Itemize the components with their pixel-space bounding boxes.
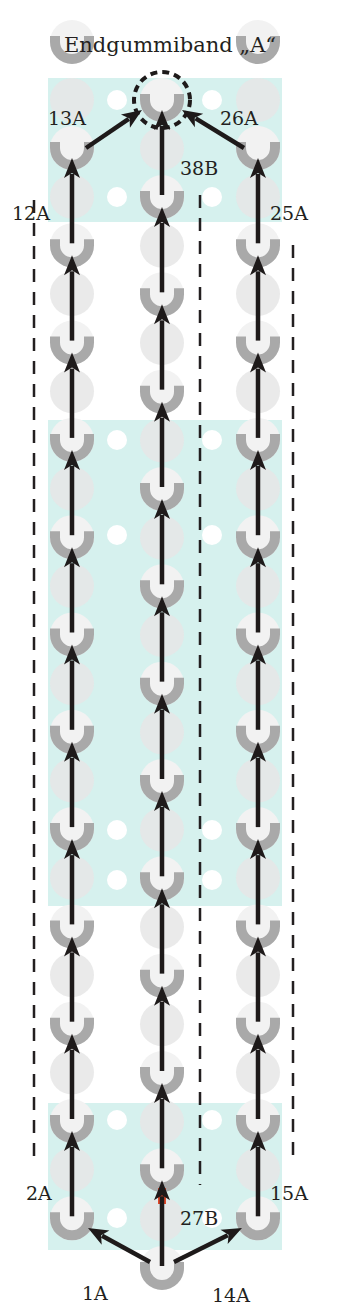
label-27b: 27B xyxy=(180,1207,218,1229)
label-1a: 1A xyxy=(82,1282,108,1304)
hole-dot xyxy=(107,430,127,450)
label-2a: 2A xyxy=(26,1182,52,1204)
hole-dot xyxy=(107,187,127,207)
hole-dot xyxy=(107,820,127,840)
hole-dot xyxy=(107,870,127,890)
hole-dot xyxy=(202,187,222,207)
diagram-title: Endgummiband „A“ xyxy=(64,33,276,57)
loom-diagram: 1A2A12A13A14A15A25A26A27B38B Endgummiban… xyxy=(0,0,341,1314)
hole-dot xyxy=(202,430,222,450)
label-14a: 14A xyxy=(212,1284,250,1306)
hole-dot xyxy=(107,525,127,545)
label-25a: 25A xyxy=(270,202,308,224)
label-38b: 38B xyxy=(180,157,218,179)
hole-dot xyxy=(107,1208,127,1228)
label-12a: 12A xyxy=(12,202,50,224)
hole-dot xyxy=(202,820,222,840)
hole-dot xyxy=(202,90,222,110)
hole-dot xyxy=(202,1110,222,1130)
label-15a: 15A xyxy=(270,1182,308,1204)
hole-dot xyxy=(202,870,222,890)
label-26a: 26A xyxy=(220,107,258,129)
hole-dot xyxy=(107,1110,127,1130)
label-13a: 13A xyxy=(48,107,86,129)
hole-dot xyxy=(202,525,222,545)
hole-dot xyxy=(107,90,127,110)
